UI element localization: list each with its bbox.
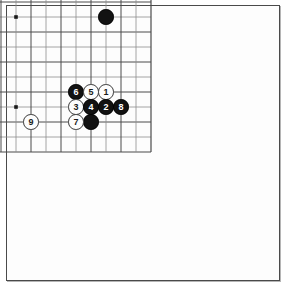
move-stone-5[interactable]: 5	[83, 84, 99, 100]
go-board-diagram: 651342879	[0, 0, 287, 287]
stone-layer: 651342879	[0, 0, 287, 287]
move-stone-1[interactable]: 1	[98, 84, 114, 100]
move-number-label: 3	[73, 103, 78, 112]
move-stone-9[interactable]: 9	[23, 114, 39, 130]
move-number-label: 1	[103, 88, 108, 97]
move-stone-2[interactable]: 2	[98, 99, 114, 115]
move-stone-4[interactable]: 4	[83, 99, 99, 115]
move-stone-8[interactable]: 8	[113, 99, 129, 115]
move-number-label: 8	[118, 103, 123, 112]
move-number-label: 9	[28, 118, 33, 127]
move-number-label: 6	[73, 88, 78, 97]
move-stone-7[interactable]: 7	[68, 114, 84, 130]
black-stone-right-side[interactable]	[98, 9, 114, 25]
move-number-label: 2	[103, 103, 108, 112]
move-number-label: 7	[73, 118, 78, 127]
move-stone-6[interactable]: 6	[68, 84, 84, 100]
black-stone-corner-plain[interactable]	[83, 114, 99, 130]
move-number-label: 5	[88, 88, 93, 97]
move-number-label: 4	[88, 103, 93, 112]
move-stone-3[interactable]: 3	[68, 99, 84, 115]
